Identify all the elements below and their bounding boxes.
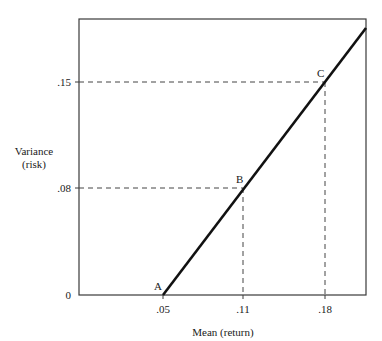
y-axis-title-line2: (risk) <box>22 158 46 171</box>
plot-frame <box>79 19 366 295</box>
x-axis-title: Mean (return) <box>192 326 254 339</box>
point-label-c: C <box>317 67 324 79</box>
y-tick-label-008: .08 <box>57 182 71 194</box>
y-tick-label-015: .15 <box>57 76 71 88</box>
point-label-b: B <box>236 173 243 185</box>
x-tick-label-005: .05 <box>156 303 170 315</box>
x-tick-label-018: .18 <box>318 303 332 315</box>
y-axis-title-line1: Variance <box>15 145 54 157</box>
x-tick-label-011: .11 <box>236 303 249 315</box>
frontier-line <box>163 28 366 295</box>
risk-return-chart: A B C .15 .08 0 .05 .11 .18 Variance (ri… <box>0 0 382 341</box>
point-label-a: A <box>154 280 162 292</box>
y-tick-label-0: 0 <box>66 289 72 301</box>
